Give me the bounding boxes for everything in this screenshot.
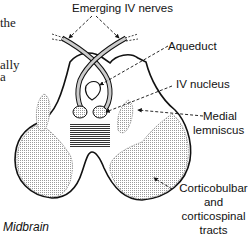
- label-emerging-nerves: Emerging IV nerves: [72, 2, 173, 15]
- label-corticospinal: corticospinal: [176, 210, 251, 223]
- iv-nucleus-left: [73, 106, 87, 118]
- cropped-text-line-1: the: [0, 16, 16, 30]
- label-aqueduct: Aqueduct: [168, 40, 217, 53]
- label-tracts: tracts: [176, 224, 251, 237]
- figure-title: Midbrain: [3, 221, 49, 234]
- label-medial: Medial: [203, 110, 237, 123]
- leader-nerves-right: [96, 16, 119, 38]
- label-and: and: [176, 196, 251, 209]
- label-iv-nucleus: IV nucleus: [176, 78, 230, 91]
- label-lemniscus: lemniscus: [193, 124, 244, 137]
- decussation: [70, 124, 110, 148]
- leader-nerves-left: [69, 16, 92, 38]
- label-corticobulbar: Corticobulbar: [176, 182, 251, 195]
- iv-nucleus-right: [93, 106, 107, 118]
- cropped-text-line-3: a: [0, 70, 6, 84]
